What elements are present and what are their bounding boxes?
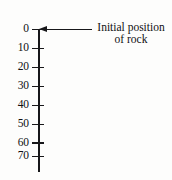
axis-tick-label-50-wrap: 50 xyxy=(0,118,29,130)
axis-tick-label-20: 20 xyxy=(0,61,29,73)
axis-tick-40 xyxy=(32,105,44,106)
axis-tick-60 xyxy=(32,142,44,143)
axis-tick-20 xyxy=(32,67,44,68)
annotation-leader-line xyxy=(46,29,92,30)
axis-tick-label-30-wrap: 30 xyxy=(0,80,29,92)
rock-position-diagram: 0 10 20 30 40 50 60 70 Initial position … xyxy=(0,0,172,180)
axis-tick-label-0-wrap: 0 xyxy=(0,23,29,35)
annotation-line-2: of rock xyxy=(92,33,170,45)
axis-tick-label-30: 30 xyxy=(0,80,29,92)
axis-tick-label-10-wrap: 10 xyxy=(0,42,29,54)
axis-tick-label-0: 0 xyxy=(0,23,29,35)
axis-tick-label-50: 50 xyxy=(0,118,29,130)
axis-tick-10 xyxy=(32,48,44,49)
arrow-left-icon xyxy=(39,26,47,32)
axis-tick-label-40-wrap: 40 xyxy=(0,99,29,111)
axis-tick-70 xyxy=(32,156,44,157)
annotation-text: Initial position of rock xyxy=(92,21,170,46)
axis-tick-label-70-wrap: 70 xyxy=(0,150,29,162)
axis-tick-label-60-wrap: 60 xyxy=(0,137,29,149)
vertical-axis-line xyxy=(38,29,40,172)
axis-tick-label-70: 70 xyxy=(0,150,29,162)
annotation-line-1: Initial position xyxy=(92,21,170,33)
axis-tick-50 xyxy=(32,124,44,125)
axis-tick-label-40: 40 xyxy=(0,99,29,111)
axis-tick-label-10: 10 xyxy=(0,42,29,54)
axis-tick-label-60: 60 xyxy=(0,137,29,149)
axis-tick-label-20-wrap: 20 xyxy=(0,61,29,73)
axis-tick-30 xyxy=(32,86,44,87)
